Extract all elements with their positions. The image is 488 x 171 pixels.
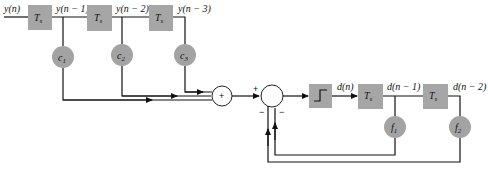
tap-label-1: y(n − 1) (55, 3, 90, 15)
c1-to-summer-wire (63, 68, 212, 100)
c3-to-summer-wire (185, 66, 212, 92)
summer1-sign: + (219, 91, 224, 101)
input-label: y(n) (3, 3, 21, 15)
wire-3-c3 (173, 17, 185, 44)
feedback-tap-label-1: d(n − 1) (387, 81, 421, 93)
equalizer-diagram: y(n) Ts y(n − 1) Ts y(n − 2) Ts y(n − 3)… (0, 0, 488, 171)
summer2-plus: + (253, 84, 258, 94)
feedback-section: Ts d(n − 1) Ts d(n − 2) f1 f2 (268, 81, 487, 162)
f1-feedback-wire (275, 108, 395, 155)
summing-junction-2 (261, 85, 283, 107)
summer2-minus-1: − (259, 107, 264, 117)
decision-output-label: d(n) (337, 81, 354, 93)
tap-label-2: y(n − 2) (115, 3, 150, 15)
wire-5-f2 (448, 96, 460, 116)
f2-feedback-wire (268, 106, 460, 162)
tap-label-3: y(n − 3) (177, 3, 212, 15)
feedforward-section: y(n) Ts y(n − 1) Ts y(n − 2) Ts y(n − 3)… (3, 3, 212, 100)
feedback-tap-label-2: d(n − 2) (453, 81, 487, 93)
summer2-minus-2: − (279, 107, 284, 117)
